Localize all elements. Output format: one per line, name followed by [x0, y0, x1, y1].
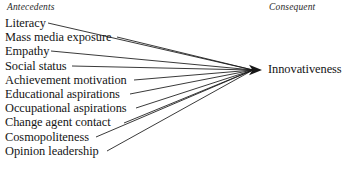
antecedent-label: Literacy [5, 16, 46, 30]
diagram-canvas: Antecedents Consequent LiteracyMass medi… [0, 0, 344, 173]
antecedent-label: Empathy [5, 44, 49, 58]
antecedent-row: Opinion leadership [0, 144, 200, 158]
antecedent-row: Literacy [0, 16, 200, 30]
consequent-node-innovativeness: Innovativeness [268, 62, 342, 77]
antecedent-row: Social status [0, 59, 200, 73]
antecedent-label: Achievement motivation [5, 73, 127, 87]
antecedent-row: Cosmopoliteness [0, 130, 200, 144]
antecedent-list: LiteracyMass media exposureEmpathySocial… [0, 16, 200, 158]
antecedent-label: Opinion leadership [5, 144, 99, 158]
column-header-consequent: Consequent [269, 2, 315, 12]
antecedent-label: Change agent contact [5, 115, 111, 129]
antecedent-row: Achievement motivation [0, 73, 200, 87]
antecedent-row: Change agent contact [0, 115, 200, 129]
antecedent-row: Occupational aspirations [0, 101, 200, 115]
antecedent-row: Mass media exposure [0, 30, 200, 44]
antecedent-label: Cosmopoliteness [5, 130, 89, 144]
antecedent-row: Educational aspirations [0, 87, 200, 101]
antecedent-label: Occupational aspirations [5, 101, 127, 115]
antecedent-label: Social status [5, 59, 67, 73]
antecedent-label: Educational aspirations [5, 87, 120, 101]
column-header-antecedents: Antecedents [7, 2, 55, 12]
antecedent-row: Empathy [0, 44, 200, 58]
antecedent-label: Mass media exposure [5, 30, 111, 44]
arrowhead-icon [249, 65, 262, 75]
